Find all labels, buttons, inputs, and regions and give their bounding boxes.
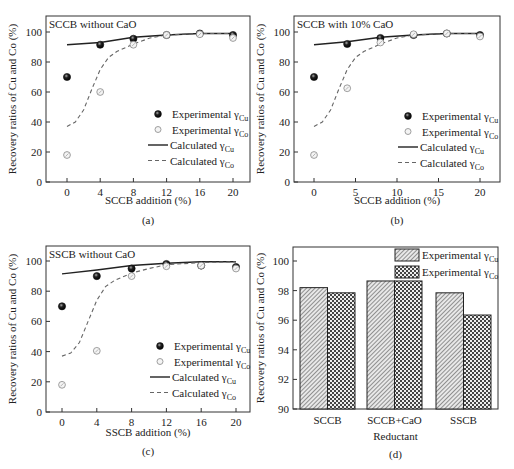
x-tick-label: 20	[231, 416, 243, 428]
calculated-cu-line	[314, 34, 480, 45]
legend-label: Experimental γCo	[172, 124, 248, 139]
y-tick-label: 0	[37, 406, 43, 418]
experimental-cu-point	[93, 273, 100, 280]
legend-marker-cu	[155, 111, 162, 118]
panel-d: 9092949698100SCCBSCCB+CaOSSCBReductantRe…	[254, 247, 498, 461]
y-tick-label: 0	[37, 176, 43, 188]
y-tick-label: 90	[278, 403, 290, 415]
legend: Experimental γCuExperimental γCoCalculat…	[150, 340, 250, 402]
bar-cu	[367, 281, 395, 409]
x-axis-label: Reductant	[373, 430, 418, 442]
legend-label: Experimental γCo	[174, 356, 250, 371]
panel-a: 020406080100048121620SCCB without CaOSCC…	[6, 16, 250, 227]
y-tick-label: 0	[285, 176, 291, 188]
y-tick-label: 100	[26, 255, 43, 267]
y-tick-label: 80	[31, 285, 43, 297]
legend-label: Calculated γCo	[170, 155, 234, 170]
y-tick-label: 100	[26, 26, 43, 38]
experimental-cu-point	[58, 303, 65, 310]
y-axis-label: Recovery ratios of Cu and Co (%)	[6, 24, 19, 175]
figure: 020406080100048121620SCCB without CaOSCC…	[0, 0, 514, 469]
y-tick-label: 94	[278, 344, 290, 356]
legend: Experimental γCuExperimental γCoCalculat…	[148, 108, 248, 170]
y-tick-label: 20	[31, 376, 43, 388]
y-tick-label: 96	[278, 314, 290, 326]
bar-cu	[436, 293, 464, 409]
y-tick-label: 40	[279, 116, 291, 128]
experimental-cu-point	[344, 40, 351, 47]
x-tick-label: SCCB+CaO	[367, 414, 422, 426]
legend-label: Experimental γCo	[422, 266, 498, 281]
x-tick-label: 4	[94, 416, 100, 428]
panel-title: SCCB without CaO	[49, 18, 136, 30]
x-tick-label: SCCB	[313, 414, 341, 426]
legend-label: Experimental γCo	[422, 126, 498, 141]
x-tick-label: 0	[311, 186, 317, 198]
panel-c: 020406080100048121620SSCB without CaOSSC…	[6, 246, 250, 458]
y-tick-label: 80	[279, 56, 291, 68]
bar-co	[395, 281, 423, 409]
x-tick-label: SSCB	[450, 414, 477, 426]
y-axis-label: Recovery ratios of Cu and Co (%)	[254, 24, 267, 175]
y-axis-label: Recovery ratios of Cu and Co (%)	[254, 253, 267, 404]
x-tick-label: 0	[59, 416, 65, 428]
y-tick-label: 60	[279, 86, 291, 98]
x-tick-label: 20	[475, 186, 487, 198]
legend-label: Experimental γCu	[174, 340, 250, 355]
experimental-cu-point	[128, 265, 135, 272]
legend-swatch-cu	[395, 249, 419, 261]
y-tick-label: 100	[273, 255, 290, 267]
legend-marker-cu	[157, 343, 164, 350]
bar-co	[328, 293, 356, 409]
legend-label: Experimental γCu	[422, 249, 498, 264]
legend-label: Calculated γCu	[172, 371, 236, 386]
panel-caption: (c)	[142, 445, 155, 458]
experimental-cu-point	[310, 73, 317, 80]
y-tick-label: 60	[31, 86, 43, 98]
x-axis-label: SSCB addition (%)	[106, 426, 191, 439]
legend-label: Calculated γCu	[170, 139, 234, 154]
panel-title: SSCB without CaO	[49, 248, 135, 260]
y-tick-label: 20	[31, 146, 43, 158]
experimental-cu-point	[97, 41, 104, 48]
y-tick-label: 92	[278, 373, 289, 385]
y-tick-label: 60	[31, 315, 43, 327]
y-tick-label: 40	[31, 346, 43, 358]
legend-label: Experimental γCu	[422, 110, 498, 125]
panel-b: 02040608010005101520SCCB with 10% CaOSCC…	[254, 16, 500, 227]
legend: Experimental γCuExperimental γCoCalculat…	[398, 110, 498, 172]
y-axis-label: Recovery ratios of Cu and Co (%)	[6, 254, 19, 405]
legend-marker-co	[405, 129, 411, 135]
legend-label: Calculated γCu	[420, 141, 484, 156]
panel-title: SCCB with 10% CaO	[297, 18, 393, 30]
bar-cu	[300, 288, 328, 409]
x-axis-label: SCCB addition (%)	[354, 194, 441, 207]
x-tick-label: 16	[194, 186, 206, 198]
legend-label: Calculated γCo	[172, 387, 236, 402]
x-axis-label: SCCB addition (%)	[105, 194, 192, 207]
x-tick-label: 16	[196, 416, 208, 428]
legend-label: Experimental γCu	[172, 108, 248, 123]
x-tick-label: 20	[228, 186, 240, 198]
legend-label: Calculated γCo	[420, 157, 484, 172]
bar-co	[464, 315, 492, 409]
legend-marker-co	[157, 359, 163, 365]
y-tick-label: 20	[279, 146, 291, 158]
calculated-cu-line	[62, 262, 236, 274]
legend-marker-cu	[405, 113, 412, 120]
experimental-cu-point	[63, 73, 70, 80]
panel-caption: (a)	[142, 214, 155, 227]
legend-swatch-co	[395, 266, 419, 278]
panel-caption: (b)	[391, 214, 404, 227]
legend-marker-co	[155, 127, 161, 133]
y-tick-label: 98	[278, 285, 290, 297]
x-tick-label: 0	[64, 186, 70, 198]
y-tick-label: 100	[274, 26, 291, 38]
x-tick-label: 4	[97, 186, 103, 198]
legend: Experimental γCuExperimental γCo	[395, 249, 498, 281]
panel-caption: (d)	[389, 448, 402, 461]
y-tick-label: 40	[31, 116, 43, 128]
y-tick-label: 80	[31, 56, 43, 68]
calculated-cu-line	[67, 34, 233, 45]
